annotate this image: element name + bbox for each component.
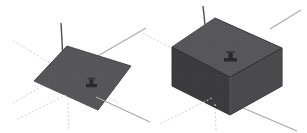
x-axis-line [96, 28, 146, 57]
z-axis-line [68, 103, 69, 129]
x-axis-line-front [96, 97, 150, 122]
x-axis-line-front [243, 108, 297, 131]
figure-left[interactable] [13, 23, 150, 129]
x-axis-line [270, 10, 301, 29]
y-axis-line-front [16, 95, 66, 120]
sketch-plane-surface[interactable] [34, 46, 131, 110]
y-axis-line-front [160, 98, 212, 124]
3d-modeling-viewport[interactable] [0, 0, 307, 133]
scene-canvas[interactable] [0, 0, 307, 133]
figure-right[interactable] [143, 6, 301, 131]
